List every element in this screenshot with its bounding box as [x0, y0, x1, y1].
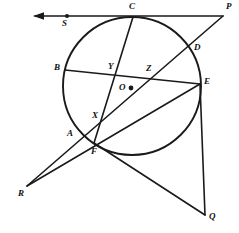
point-dot-O — [129, 86, 134, 91]
point-label-B: B — [54, 63, 60, 72]
point-label-S: S — [62, 19, 67, 28]
geometry-canvas — [0, 0, 239, 233]
point-label-A: A — [67, 129, 73, 138]
point-label-D: D — [194, 43, 201, 52]
point-label-R: R — [18, 189, 24, 198]
point-label-E: E — [204, 77, 210, 86]
chord-B-Y-Z-E — [65, 70, 200, 84]
tangent-arrowhead-icon — [33, 12, 44, 20]
point-label-P: P — [226, 2, 232, 11]
segment-E-Q — [200, 84, 205, 215]
chord-C-Y-X-F — [94, 17, 133, 143]
point-label-F: F — [91, 147, 97, 156]
point-label-C: C — [129, 2, 135, 11]
segment-F-Q — [94, 143, 205, 215]
point-label-X: X — [92, 111, 98, 120]
point-label-Y: Y — [108, 62, 114, 71]
geometry-diagram: S C P D B Y Z E O X A F R Q — [0, 0, 239, 233]
point-label-Z: Z — [146, 64, 152, 73]
secant-R-A-F-E — [27, 84, 200, 186]
point-label-Q: Q — [209, 212, 216, 221]
point-label-O: O — [119, 83, 126, 92]
